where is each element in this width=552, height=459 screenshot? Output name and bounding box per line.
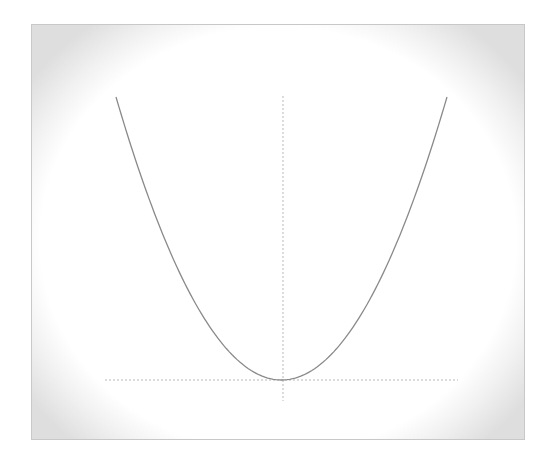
parabola-curve xyxy=(116,97,447,380)
chart-canvas xyxy=(0,0,552,459)
